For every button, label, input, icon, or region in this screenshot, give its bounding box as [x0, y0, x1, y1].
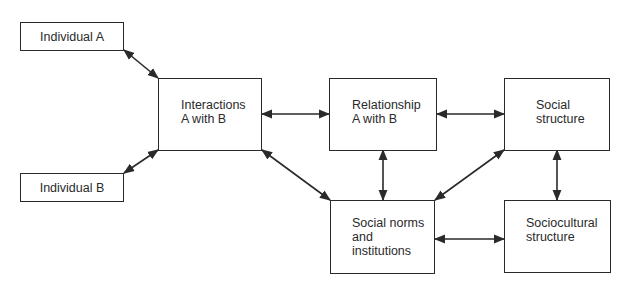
node-social-norms-line1: Social norms [352, 216, 434, 230]
node-relationship: Relationship A with B [329, 78, 437, 151]
node-social-norms-line2: and [352, 230, 434, 244]
node-relationship-line1: Relationship [352, 98, 436, 112]
node-sociocultural: Sociocultural structure [504, 200, 611, 273]
edge-interactions-social-norms [262, 150, 330, 200]
node-individual-b: Individual B [20, 173, 124, 202]
node-individual-b-label: Individual B [40, 181, 105, 195]
node-social-norms-line3: institutions [352, 244, 434, 258]
node-social-structure-line1: Social [536, 98, 609, 112]
edge-individual-b-interactions [124, 150, 158, 173]
node-social-norms: Social norms and institutions [330, 200, 435, 274]
node-sociocultural-line1: Sociocultural [526, 216, 610, 230]
node-individual-a-label: Individual A [40, 30, 104, 44]
node-individual-a: Individual A [20, 22, 124, 51]
node-sociocultural-line2: structure [526, 230, 610, 244]
node-interactions-line2: A with B [181, 112, 261, 126]
node-social-structure: Social structure [504, 78, 610, 151]
edge-social-structure-social-norms [435, 150, 504, 200]
node-relationship-line2: A with B [352, 112, 436, 126]
node-interactions: Interactions A with B [158, 78, 262, 151]
node-social-structure-line2: structure [536, 112, 609, 126]
node-interactions-line1: Interactions [181, 98, 261, 112]
edge-individual-a-interactions [124, 50, 158, 78]
